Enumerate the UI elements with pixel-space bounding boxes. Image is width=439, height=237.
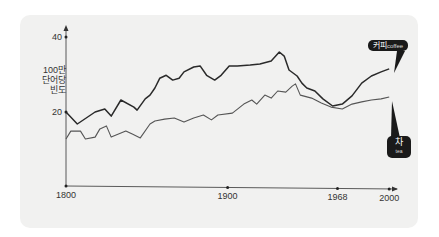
x-tick-label-2000: 2000	[379, 193, 399, 203]
legend-callout-tea: 차 tea	[387, 136, 411, 158]
x-axis-arrow	[392, 187, 398, 192]
legend-coffee-label-en: coffee	[387, 43, 403, 49]
axes	[64, 25, 399, 192]
y-axis-label-line-1: 100만	[36, 65, 66, 75]
x-tick-mark-1968	[336, 187, 339, 190]
y-tick-label-40: 40	[52, 32, 62, 42]
series-lines	[66, 51, 405, 139]
legend-tea-label-en: tea	[387, 148, 411, 154]
x-tick-mark-1900	[226, 186, 229, 189]
y-tick-mark-40	[65, 36, 68, 39]
y-axis-label-line-3: 빈도	[36, 85, 66, 95]
ticks: 20401800190019682000	[52, 32, 399, 203]
y-tick-mark-20	[65, 111, 68, 114]
legend-callout-coffee: 커피coffee	[368, 40, 408, 51]
line-chart: 20401800190019682000	[0, 0, 439, 237]
x-tick-mark-1800	[65, 185, 68, 188]
x-tick-label-1800: 1800	[56, 190, 76, 200]
legend-tea-label-kr: 차	[387, 136, 411, 148]
x-tick-label-1900: 1900	[218, 191, 238, 201]
y-tick-label-20: 20	[52, 107, 62, 117]
x-tick-mark-2000	[388, 187, 391, 190]
coffee-callout-pointer	[394, 51, 405, 73]
x-tick-label-1968: 1968	[327, 192, 347, 202]
y-axis-arrow	[64, 25, 69, 31]
x-axis-line	[66, 186, 397, 189]
tea-callout-pointer	[391, 101, 400, 138]
y-axis-label: 100만 단어당 빈도	[36, 65, 66, 95]
y-axis-label-line-2: 단어당	[36, 75, 66, 85]
legend-coffee-label-kr: 커피	[373, 41, 387, 50]
